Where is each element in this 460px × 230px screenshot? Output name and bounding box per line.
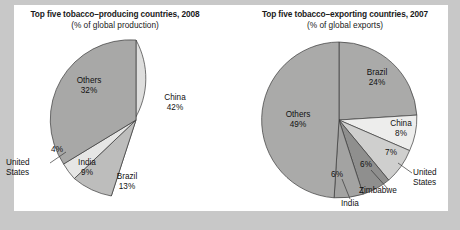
label-brazil-value: 24% <box>354 78 400 88</box>
label-others-name: Others <box>64 76 114 86</box>
label-china: China 8% <box>378 119 424 139</box>
label-united-states-name-line2: States <box>6 168 50 178</box>
label-united-states-value-wrapper: 7% <box>378 148 404 158</box>
label-zimbabwe-value: 6% <box>353 160 379 170</box>
label-china: China 42% <box>152 93 198 113</box>
label-others-value: 32% <box>64 86 114 96</box>
label-united-states-value: 7% <box>378 148 404 158</box>
label-united-states-name-line1: United <box>6 158 50 168</box>
figure-root: Top five tobacco–producing countries, 20… <box>0 0 460 230</box>
label-united-states-value-wrapper: 4% <box>44 145 70 155</box>
label-india-name: India <box>67 158 107 168</box>
label-india: India <box>341 199 381 209</box>
label-china-value: 42% <box>152 103 198 113</box>
label-india-value: 9% <box>67 168 107 178</box>
label-india-value-wrapper: 6% <box>324 170 350 180</box>
pie-chart-exporting: Top five tobacco–exporting countries, 20… <box>230 0 460 230</box>
label-united-states: United States <box>6 158 50 178</box>
label-united-states-name-line1: United <box>413 168 457 178</box>
label-others-name: Others <box>272 110 324 120</box>
label-china-value: 8% <box>378 129 424 139</box>
label-brazil: Brazil 13% <box>104 172 150 192</box>
label-united-states: United States <box>413 168 457 188</box>
label-brazil-name: Brazil <box>104 172 150 182</box>
label-india-value: 6% <box>324 170 350 180</box>
label-others: Others 49% <box>272 110 324 130</box>
label-others-value: 49% <box>272 120 324 130</box>
label-china-name: China <box>152 93 198 103</box>
label-india-name: India <box>341 199 381 209</box>
label-china-name: China <box>378 119 424 129</box>
label-united-states-value: 4% <box>44 145 70 155</box>
label-zimbabwe-name: Zimbabwe <box>359 186 419 196</box>
label-india: India 9% <box>67 158 107 178</box>
label-brazil: Brazil 24% <box>354 68 400 88</box>
label-united-states-name-line2: States <box>413 178 457 188</box>
label-zimbabwe: Zimbabwe <box>359 186 419 196</box>
label-brazil-name: Brazil <box>354 68 400 78</box>
label-brazil-value: 13% <box>104 182 150 192</box>
pie-svg-producing <box>0 0 230 230</box>
pie-chart-producing: Top five tobacco–producing countries, 20… <box>0 0 230 230</box>
pie-svg-exporting <box>230 0 460 230</box>
label-others: Others 32% <box>64 76 114 96</box>
label-zimbabwe-value-wrapper: 6% <box>353 160 379 170</box>
